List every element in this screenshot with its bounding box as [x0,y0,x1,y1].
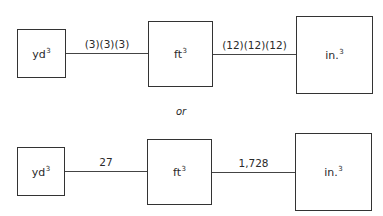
conversion-factor-yd-ft-row2: 27 [65,156,147,168]
connector-line-yd-ft-row2 [65,171,147,172]
connector-line-ft-in-row1 [213,54,296,55]
connector-line-yd-ft-row1 [66,53,148,54]
unit-label: in.3 [325,48,344,62]
unit-label: ft3 [174,47,187,61]
box-cubic-feet-row2: ft3 [147,139,212,205]
unit-label: yd3 [32,47,50,61]
conversion-factor-ft-in-row1: (12)(12)(12) [213,39,296,51]
connector-line-ft-in-row2 [212,172,295,173]
conversion-factor-yd-ft-row1: (3)(3)(3) [66,38,148,50]
conversion-factor-ft-in-row2: 1,728 [212,157,295,169]
box-cubic-yards-row1: yd3 [17,29,66,78]
unit-label: ft3 [173,165,186,179]
box-cubic-inches-row1: in.3 [296,16,373,94]
box-cubic-yards-row2: yd3 [17,147,65,196]
unit-label: in.3 [324,165,343,179]
box-cubic-feet-row1: ft3 [148,21,213,87]
unit-label: yd3 [32,165,50,179]
separator-or: or [176,106,186,117]
box-cubic-inches-row2: in.3 [295,133,372,211]
